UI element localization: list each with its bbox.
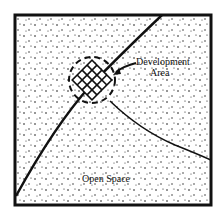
development-area-label-line1: Development — [136, 57, 190, 67]
open-space-label: Open Space — [82, 174, 130, 184]
development-area-label-line2: Area — [150, 68, 169, 78]
site-diagram — [0, 0, 224, 219]
